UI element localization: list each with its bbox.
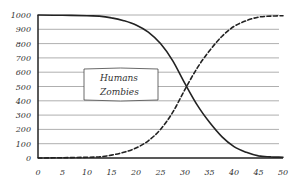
y-tick-label: 0	[26, 154, 31, 163]
x-tick-label: 40	[228, 168, 239, 177]
x-tick-label: 35	[204, 168, 214, 177]
x-tick-label: 20	[130, 168, 141, 177]
legend-label-humans: Humans	[99, 73, 138, 83]
horizontal-gridlines	[38, 15, 279, 144]
y-tick-label: 800	[16, 40, 31, 49]
x-tick-label: 5	[60, 168, 65, 177]
x-tick-label: 10	[82, 168, 92, 177]
legend-label-zombies: Zombies	[99, 87, 139, 97]
y-tick-label: 100	[16, 140, 31, 149]
y-tick-label: 1000	[11, 11, 31, 20]
y-tick-label: 900	[16, 25, 31, 34]
y-tick-label: 600	[16, 68, 31, 77]
x-tick-label: 50	[278, 168, 288, 177]
chart-legend: Humans Zombies	[84, 68, 158, 101]
y-tick-label: 400	[15, 97, 31, 106]
y-tick-label: 200	[15, 125, 31, 134]
x-tick-label: 45	[252, 168, 263, 177]
x-axis-tick-labels: 05101520253035404550	[35, 168, 288, 177]
x-tick-label: 0	[35, 168, 40, 177]
y-tick-label: 700	[16, 54, 31, 63]
x-tick-label: 30	[180, 168, 190, 177]
x-tick-label: 15	[106, 168, 116, 177]
x-tick-label: 25	[154, 168, 165, 177]
line-chart: 01002003004005006007008009001000 0510152…	[0, 0, 305, 188]
y-tick-label: 500	[16, 83, 31, 92]
y-axis-tick-labels: 01002003004005006007008009001000	[11, 11, 31, 163]
y-tick-label: 300	[16, 111, 31, 120]
